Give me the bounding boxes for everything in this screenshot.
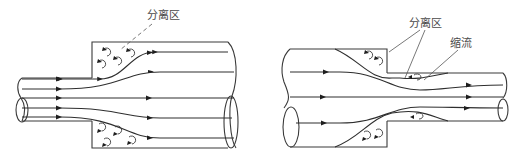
diagram-canvas: 分离区 分离区 缩流 — [0, 0, 520, 161]
outlet-ellipse — [224, 96, 238, 148]
vena-contracta-label: 缩流 — [450, 38, 472, 50]
inlet-end-cap — [282, 49, 290, 108]
eddy-icon — [364, 131, 371, 139]
contraction-pipe — [282, 49, 508, 147]
expansion-label-leader — [120, 24, 152, 50]
separation-boundary — [335, 111, 448, 147]
streamline — [22, 52, 228, 79]
eddy-icon — [376, 129, 383, 137]
expansion-step-top — [92, 42, 228, 78]
streamline — [290, 72, 503, 90]
inlet-ellipse — [283, 107, 299, 147]
vena-contracta-leader — [424, 50, 458, 80]
inlet-ellipse — [16, 98, 28, 122]
outlet-ellipse — [498, 99, 508, 121]
streamline — [22, 117, 234, 138]
eddy-icon — [414, 74, 421, 80]
outlet-arrowheads — [146, 51, 154, 141]
inlet-arrowheads — [56, 77, 62, 120]
inlet-top-wall — [290, 49, 387, 73]
contraction-separation-leader-2 — [405, 30, 425, 78]
contraction-eddies — [362, 50, 423, 141]
expansion-pipe — [16, 42, 238, 148]
streamline — [22, 72, 234, 89]
expansion-streamlines — [22, 51, 234, 141]
contraction-separation-zone-label: 分离区 — [409, 18, 442, 30]
expansion-separation-zone-label: 分离区 — [147, 10, 180, 22]
contraction-streamlines — [290, 49, 503, 147]
flow-diagram-svg — [0, 0, 520, 161]
inlet-bottom-wall — [290, 121, 387, 147]
outlet-end-cap — [228, 42, 236, 148]
eddy-icon — [99, 123, 106, 131]
expansion-eddies-bottom — [97, 123, 136, 147]
eddy-icon — [416, 113, 423, 119]
contraction-separation-leader-1 — [389, 30, 420, 52]
outlet-end-cap — [503, 73, 507, 98]
